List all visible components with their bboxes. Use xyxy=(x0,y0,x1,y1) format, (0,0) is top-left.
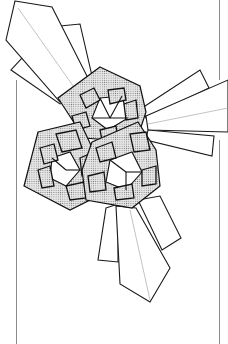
origami-drawing xyxy=(0,0,228,344)
tile xyxy=(88,172,106,192)
ray-group-right xyxy=(142,70,228,156)
tile xyxy=(66,182,86,200)
tile xyxy=(124,100,138,120)
tile xyxy=(130,132,150,152)
origami-illustration xyxy=(0,0,228,344)
ray-group-bottom xyxy=(98,196,181,302)
ray-left xyxy=(98,204,118,262)
tile xyxy=(142,166,156,186)
